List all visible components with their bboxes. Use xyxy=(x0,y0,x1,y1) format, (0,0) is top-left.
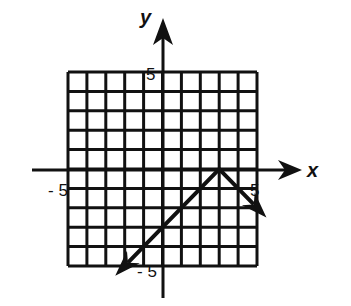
y-min-tick-label: - 5 xyxy=(137,262,157,281)
function-graph xyxy=(115,169,266,276)
x-min-tick-label: - 5 xyxy=(48,181,68,200)
y-axis-label: y xyxy=(139,6,152,28)
coordinate-plane: x y 5 - 5 5 - 5 xyxy=(0,0,351,306)
x-axis-label: x xyxy=(306,159,319,181)
y-max-tick-label: 5 xyxy=(146,65,155,84)
